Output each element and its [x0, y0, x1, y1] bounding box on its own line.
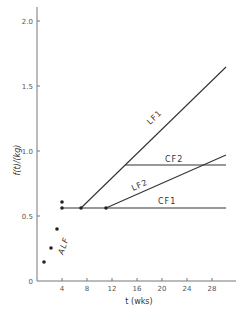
x-tick-label: 28: [208, 285, 217, 293]
y-axis-label: f(t)/(kg): [13, 145, 22, 176]
x-tick-label: 4: [60, 285, 65, 293]
x-tick-label: 8: [85, 285, 89, 293]
x-axis-label: t (wks): [125, 297, 152, 306]
x-ticks: 4 8 12 16 20 24 28: [60, 278, 217, 293]
cf2-label: CF2: [165, 155, 183, 164]
y-tick-label: 1.5: [22, 83, 33, 91]
x-tick-label: 16: [133, 285, 142, 293]
cf1-label: CF1: [158, 197, 176, 206]
x-tick-label: 24: [183, 285, 192, 293]
x-tick-label: 12: [108, 285, 117, 293]
lf1-label: LF1: [145, 108, 164, 126]
y-tick-label: 0.5: [22, 213, 33, 221]
chart: 0 0.5 1.0 1.5 2.0 4 8 12 16 20 24 28 t (…: [0, 0, 246, 315]
y-tick-label: 1.0: [22, 148, 33, 156]
y-tick-label: 2.0: [22, 18, 33, 26]
alf-label: ALF: [56, 236, 71, 256]
y-tick-label: 0: [29, 278, 33, 286]
x-tick-label: 20: [158, 285, 167, 293]
